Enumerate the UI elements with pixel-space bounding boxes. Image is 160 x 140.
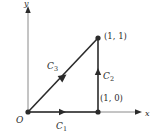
curve-c1-direction-arrow-icon [59, 109, 66, 115]
y-axis-label: y [24, 0, 29, 8]
curve-c3-label: C3 [47, 62, 58, 72]
origin-label: O [16, 116, 23, 125]
point-marker-1-0 [95, 109, 100, 114]
point-marker-origin [25, 109, 30, 114]
diagram-svg [0, 0, 160, 140]
x-axis-arrowhead-icon [135, 109, 142, 114]
point-1-0-coordinate-label: (1, 0) [100, 94, 123, 103]
figure-canvas: y x O C1 C2 C3 (1, 1) (1, 0) [0, 0, 160, 140]
curve-c1-label-subscript: 1 [63, 125, 67, 133]
curve-c2-label-subscript: 2 [110, 75, 114, 83]
curve-c3-label-main: C [47, 61, 54, 71]
x-axis-label: x [145, 110, 150, 118]
curve-c1-label-main: C [56, 121, 63, 131]
curve-c3-label-subscript: 3 [54, 65, 58, 73]
curve-c2-label-main: C [103, 71, 110, 81]
curve-c2-label: C2 [103, 72, 114, 82]
curve-c2-direction-arrow-icon [95, 68, 101, 75]
point-1-1-coordinate-label: (1, 1) [104, 32, 127, 41]
curve-c1-label: C1 [56, 122, 67, 132]
curve-c3-segment [28, 38, 98, 112]
point-marker-1-1 [95, 35, 100, 40]
